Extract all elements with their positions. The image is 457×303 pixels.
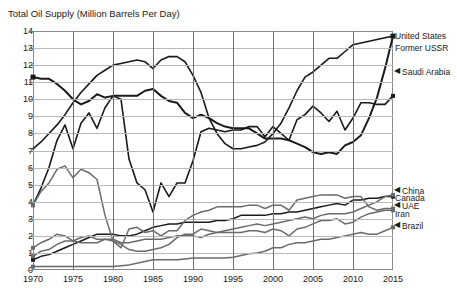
x-tick-label: 1990 [183,274,203,284]
x-gridline [153,31,154,270]
series-endpoint-marker [31,246,35,250]
x-tick-label: 1970 [23,274,43,284]
y-gridline [33,236,393,237]
x-gridline [313,31,314,270]
x-gridline [193,31,194,270]
series-label-united-states: United States [395,32,446,41]
x-gridline [273,31,274,270]
x-tick-label: 1980 [103,274,123,284]
label-arrow-icon: ◀ [394,67,400,75]
x-tick-label: 1985 [143,274,163,284]
x-tick-label: 2015 [383,274,403,284]
y-gridline [33,48,393,49]
x-tick-label: 2010 [343,274,363,284]
series-endpoint-marker [31,254,35,258]
series-endpoint-marker [31,203,35,207]
series-label-saudi-arabia: Saudi Arabia [402,68,450,77]
label-arrow-icon: ◀ [394,221,400,229]
y-gridline [33,82,393,83]
x-tick-label: 2000 [263,274,283,284]
y-tick-mark [29,270,33,271]
y-axis: 01234567891011121314 [0,31,33,270]
y-gridline [33,151,393,152]
series-endpoint-marker [31,75,36,80]
label-arrow-icon: ◀ [394,201,400,209]
series-line [33,36,393,149]
y-gridline [33,116,393,117]
y-gridline [33,219,393,220]
x-tick-label: 1975 [63,274,83,284]
y-gridline [33,133,393,134]
series-line [33,96,393,212]
x-axis: 1970197519801985199019952000200520102015 [33,272,393,292]
x-gridline [73,31,74,270]
x-tick-label: 2005 [303,274,323,284]
y-gridline [33,185,393,186]
series-label-brazil: Brazil [402,222,423,231]
series-label-former-ussr: Former USSR [395,44,448,53]
plot-area [33,31,393,270]
y-gridline [33,253,393,254]
series-endpoint-marker [391,94,395,98]
x-tick-label: 1995 [223,274,243,284]
oil-supply-chart: Total Oil Supply (Million Barrels Per Da… [0,0,457,303]
series-line [33,36,393,154]
y-gridline [33,168,393,169]
y-gridline [33,202,393,203]
chart-title: Total Oil Supply (Million Barrels Per Da… [8,8,180,19]
y-gridline [33,65,393,66]
x-gridline [233,31,234,270]
x-gridline [353,31,354,270]
series-endpoint-marker [31,265,35,269]
x-gridline [113,31,114,270]
series-line [33,197,393,260]
series-label-iran: Iran [395,210,410,219]
series-endpoint-marker [31,258,35,262]
y-gridline [33,99,393,100]
